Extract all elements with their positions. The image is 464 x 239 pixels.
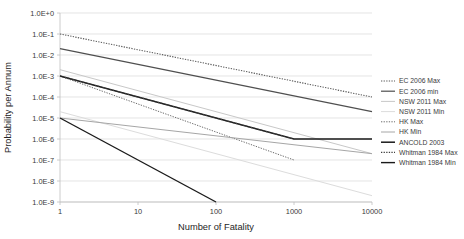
y-tick-label: 1.0E-4 (32, 93, 54, 102)
legend-label-nsw-2011-min: NSW 2011 Min (399, 108, 444, 115)
y-axis-title: Probability per Annum (3, 62, 13, 153)
legend: EC 2006 MaxEC 2006 minNSW 2011 MaxNSW 20… (381, 77, 458, 166)
legend-label-whitman-1984-min: Whitman 1984 Min (399, 159, 456, 166)
series-line-nsw-2011-max (60, 70, 372, 154)
axes-group (57, 13, 372, 205)
legend-label-ec-2006-min: EC 2006 min (399, 88, 439, 95)
legend-label-ec-2006-max: EC 2006 Max (399, 77, 441, 84)
series-line-hk-min (60, 118, 372, 154)
y-tick-label: 1.0E-8 (32, 177, 54, 186)
y-tick-label: 1.0E-5 (32, 114, 54, 123)
x-tick-label: 1000 (286, 207, 302, 216)
series-line-ec-2006-max (60, 34, 372, 97)
legend-label-ancold-2003: ANCOLD 2003 (399, 139, 445, 146)
y-tick-label: 1.0E-9 (32, 198, 54, 207)
x-tick-labels: 110100100010000 (58, 207, 382, 216)
series-line-ancold-2003 (60, 76, 372, 139)
y-tick-label: 1.0E-1 (32, 30, 54, 39)
series-line-nsw-2011-min (60, 112, 372, 196)
x-tick-label: 10000 (362, 207, 383, 216)
legend-label-hk-min: HK Min (399, 128, 422, 135)
chart-canvas: 110100100010000 1.0E+01.0E-11.0E-21.0E-3… (0, 0, 464, 239)
x-tick-label: 1 (58, 207, 62, 216)
legend-label-hk-max: HK Max (399, 118, 424, 125)
y-tick-labels: 1.0E+01.0E-11.0E-21.0E-31.0E-41.0E-51.0E… (30, 9, 54, 207)
fn-curve-chart: 110100100010000 1.0E+01.0E-11.0E-21.0E-3… (0, 0, 464, 239)
series-line-ec-2006-min (60, 49, 372, 112)
y-tick-label: 1.0E-3 (32, 72, 54, 81)
y-tick-label: 1.0E-6 (32, 135, 54, 144)
gridlines-group (60, 13, 372, 202)
y-tick-label: 1.0E-7 (32, 156, 54, 165)
legend-label-whitman-1984-max: Whitman 1984 Max (399, 149, 458, 156)
y-tick-label: 1.0E-2 (32, 51, 54, 60)
y-tick-label: 1.0E+0 (30, 9, 54, 18)
legend-label-nsw-2011-max: NSW 2011 Max (399, 98, 447, 105)
x-tick-label: 100 (210, 207, 222, 216)
x-axis-title: Number of Fatality (178, 222, 254, 232)
x-tick-label: 10 (134, 207, 142, 216)
